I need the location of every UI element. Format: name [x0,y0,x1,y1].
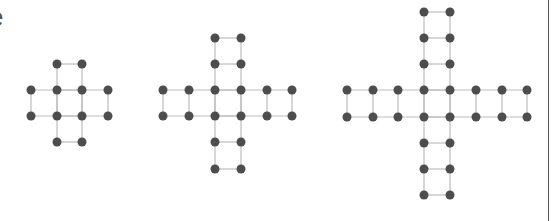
graph-node [237,34,246,43]
cross-figure-2 [159,34,297,174]
graph-node [27,86,36,95]
graph-node [498,113,507,122]
graph-node [394,86,403,95]
graph-node [104,112,113,121]
graph-node [446,60,455,69]
graph-node [288,86,297,95]
graph-node [420,8,429,17]
graph-node [211,34,220,43]
graph-node [420,34,429,43]
graph-node [472,86,481,95]
graph-node [446,34,455,43]
graph-node [343,113,352,122]
graph-node [78,138,87,147]
graph-node [78,60,87,69]
right-border-divider [548,0,549,221]
graph-node [211,60,220,69]
graph-node [53,86,62,95]
graph-node [420,86,429,95]
graph-node [53,60,62,69]
graph-node [394,113,403,122]
graph-node [343,86,352,95]
graph-node [78,112,87,121]
graph-node [498,86,507,95]
graph-node [237,112,246,121]
graph-node [523,113,532,122]
graph-node [78,86,87,95]
graph-node [446,113,455,122]
graph-node [159,86,168,95]
graph-node [211,138,220,147]
graph-node [185,86,194,95]
graph-node [53,138,62,147]
graph-node [369,86,378,95]
graph-node [211,112,220,121]
graph-node [446,139,455,148]
graph-node [446,8,455,17]
graph-node [446,86,455,95]
graph-node [211,165,220,174]
graph-node [263,86,272,95]
graph-node [420,191,429,200]
graph-node [237,138,246,147]
graph-node [523,86,532,95]
graph-node [288,112,297,121]
graph-node [185,112,194,121]
graph-node [369,113,378,122]
graph-node [237,165,246,174]
graph-node [420,60,429,69]
graph-node [420,113,429,122]
graph-node [159,112,168,121]
cross-graph-diagram [0,0,553,221]
graph-node [211,86,220,95]
graph-node [420,165,429,174]
graph-node [104,86,113,95]
cross-figure-1 [27,60,113,147]
graph-node [53,112,62,121]
graph-node [237,86,246,95]
graph-node [263,112,272,121]
cross-figure-3 [343,8,532,200]
graph-node [472,113,481,122]
graph-node [446,165,455,174]
graph-node [420,139,429,148]
graph-node [27,112,36,121]
graph-node [446,191,455,200]
graph-node [237,60,246,69]
